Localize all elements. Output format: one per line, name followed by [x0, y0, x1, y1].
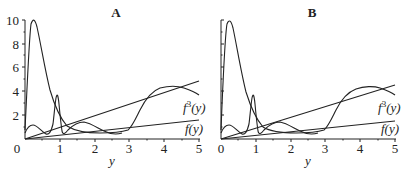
curve-f — [25, 95, 122, 134]
curve-f3 — [221, 21, 395, 133]
x-tick-label: 0 — [218, 141, 225, 156]
y-tick-label: 4 — [13, 84, 20, 99]
label-f: f(y) — [185, 121, 203, 136]
x-tick-label: 5 — [196, 141, 203, 156]
y-tick-label: 8 — [13, 37, 20, 52]
x-axis-label: y — [303, 153, 311, 168]
x-tick-label: 3 — [126, 141, 133, 156]
x-tick-label: 1 — [253, 141, 260, 156]
panel-a: A 2 4 6 8 10 — [6, 5, 206, 168]
curve-f3 — [25, 20, 199, 133]
x-tick-label: 5 — [392, 141, 399, 156]
curve-f — [221, 95, 318, 134]
y-tick-label: 10 — [6, 13, 19, 28]
x-tick-label: 2 — [288, 141, 295, 156]
label-f3: f3(y) — [183, 99, 206, 115]
figure: A 2 4 6 8 10 — [0, 0, 411, 170]
x-tick-label: 2 — [92, 141, 99, 156]
y-tick-label: 6 — [13, 60, 20, 75]
x-tick-label: 1 — [57, 141, 64, 156]
label-f: f(y) — [381, 121, 399, 136]
label-f3: f3(y) — [378, 99, 401, 115]
panel-b: B 0 1 2 3 — [218, 5, 401, 168]
x-axis-label: y — [107, 153, 115, 168]
panel-a-title: A — [111, 5, 121, 20]
x-tick-label: 3 — [322, 141, 329, 156]
x-tick-label: 4 — [357, 141, 364, 156]
panel-b-title: B — [308, 5, 317, 20]
y-tick-label: 2 — [13, 108, 20, 123]
x-tick-label: 4 — [161, 141, 168, 156]
x-tick-label: 0 — [14, 141, 21, 156]
